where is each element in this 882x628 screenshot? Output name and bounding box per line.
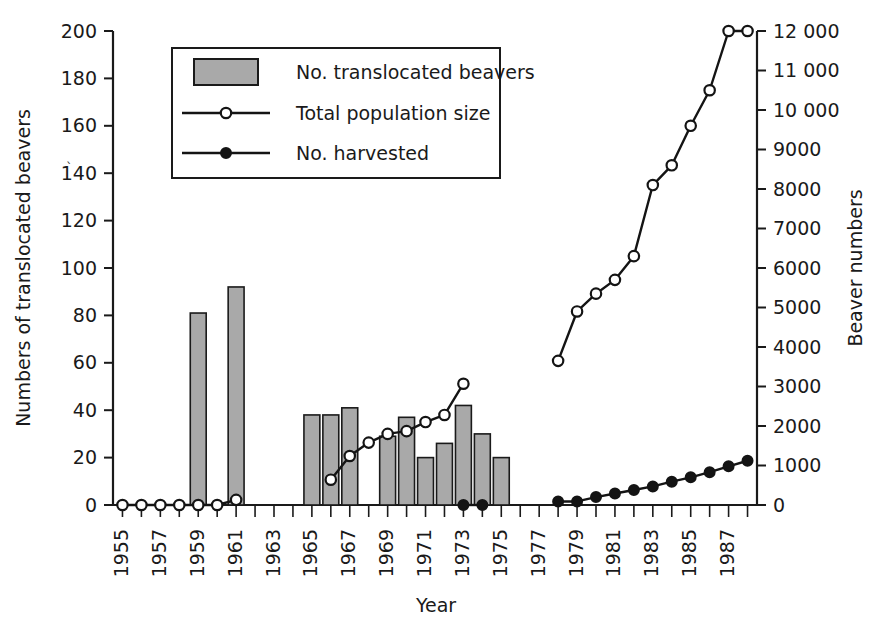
total-population-marker: [136, 500, 146, 510]
x-axis-tick-label: 1987: [716, 529, 738, 577]
y-axis-left-tick-label: 180: [61, 67, 97, 89]
y-axis-right-tick-label: 5000: [773, 296, 821, 318]
y-axis-left: 020406080100120140160180200: [61, 20, 113, 516]
total-population-marker: [174, 500, 184, 510]
y-axis-left-tick-label: 60: [73, 351, 97, 373]
bar: [493, 458, 509, 505]
legend-marker-harvested: [221, 148, 231, 158]
y-axis-left-tick-label: 100: [61, 257, 97, 279]
y-axis-right-tick-label: 3000: [773, 375, 821, 397]
bar: [474, 434, 490, 505]
bar: [228, 287, 244, 505]
y-axis-right-tick-label: 9000: [773, 138, 821, 160]
bar: [190, 313, 206, 505]
x-axis-tick-label: 1975: [489, 529, 511, 577]
harvested-marker: [686, 472, 696, 482]
total-population-marker: [193, 500, 203, 510]
bar: [455, 405, 471, 505]
y-axis-left-tick-label: 40: [73, 399, 97, 421]
y-axis-right-tick-label: 11 000: [773, 59, 839, 81]
harvested-marker: [610, 489, 620, 499]
x-axis-tick-label: 1983: [640, 529, 662, 577]
x-axis-tick-label: 1985: [678, 529, 700, 577]
y-axis-right-tick-label: 0: [773, 494, 785, 516]
y-axis-right-tick-label: 10 000: [773, 99, 839, 121]
bar: [323, 415, 339, 505]
x-axis-tick-label: 1965: [299, 529, 321, 577]
beaver-population-chart: 020406080100120140160180200 010002000300…: [0, 0, 882, 628]
y-axis-right-tick-label: 4000: [773, 336, 821, 358]
total-population-marker: [458, 379, 468, 389]
total-population-marker: [401, 426, 411, 436]
x-axis-tick-label: 1971: [413, 529, 435, 577]
x-axis-tick-label: 1969: [375, 529, 397, 577]
total-population-marker: [742, 26, 752, 36]
legend-label: Total population size: [295, 102, 490, 124]
total-population-marker: [420, 417, 430, 427]
x-axis-tick-label: 1961: [224, 529, 246, 577]
y-axis-left-tick-label: 160: [61, 114, 97, 136]
legend-label: No. harvested: [296, 142, 429, 164]
bar: [304, 415, 320, 505]
y-axis-left-title: Numbers of translocated beavers: [12, 109, 34, 427]
legend-marker-total-population: [221, 108, 231, 118]
bar: [418, 458, 434, 505]
total-population-marker: [572, 306, 582, 316]
y-axis-right-tick-label: 1000: [773, 454, 821, 476]
y-axis-left-tick-label: 80: [73, 304, 97, 326]
total-population-path: [558, 31, 747, 361]
total-population-marker: [231, 495, 241, 505]
harvested-marker: [648, 481, 658, 491]
chart-legend: No. translocated beaversTotal population…: [172, 48, 535, 178]
harvested-marker: [477, 500, 487, 510]
y-axis-right-tick-label: 6000: [773, 257, 821, 279]
x-axis-tick-label: 1957: [148, 529, 170, 577]
x-axis-tick-label: 1955: [110, 529, 132, 577]
x-axis-tick-label: 1977: [527, 529, 549, 577]
y-axis-left-tick-label: 0: [85, 494, 97, 516]
x-axis-tick-label: 1979: [565, 529, 587, 577]
bar: [380, 436, 396, 505]
harvested-marker: [553, 496, 563, 506]
x-axis-tick-label: 1973: [451, 529, 473, 577]
total-population-marker: [439, 410, 449, 420]
y-axis-left-tick-label: 20: [73, 446, 97, 468]
bar-series-translocated: [190, 287, 509, 505]
y-axis-right-title: Beaver numbers: [844, 189, 866, 346]
stray-tick-mark: `: [66, 160, 73, 175]
harvested-marker: [705, 467, 715, 477]
x-axis-title: Year: [415, 594, 456, 616]
total-population-marker: [553, 356, 563, 366]
harvested-marker: [572, 496, 582, 506]
harvested-marker: [591, 492, 601, 502]
y-axis-left-tick-label: 200: [61, 20, 97, 42]
y-axis-right-tick-label: 7000: [773, 217, 821, 239]
x-axis-tick-label: 1981: [602, 529, 624, 577]
legend-label: No. translocated beavers: [296, 61, 535, 83]
total-population-marker: [629, 251, 639, 261]
x-axis-tick-label: 1967: [337, 529, 359, 577]
total-population-marker: [326, 475, 336, 485]
total-population-marker: [382, 429, 392, 439]
harvested-marker: [743, 456, 753, 466]
y-axis-right-tick-label: 12 000: [773, 20, 839, 42]
chart-canvas: 020406080100120140160180200 010002000300…: [0, 0, 882, 628]
total-population-marker: [212, 500, 222, 510]
x-axis-tick-label: 1963: [262, 529, 284, 577]
total-population-marker: [155, 500, 165, 510]
total-population-marker: [117, 500, 127, 510]
harvested-marker: [458, 500, 468, 510]
y-axis-right-tick-label: 8000: [773, 178, 821, 200]
x-axis: 1955195719591961196319651967196919711973…: [110, 505, 757, 577]
total-population-marker: [667, 160, 677, 170]
bar: [437, 443, 453, 505]
harvested-marker: [724, 461, 734, 471]
total-population-marker: [723, 26, 733, 36]
total-population-marker: [591, 288, 601, 298]
total-population-marker: [704, 85, 714, 95]
total-population-marker: [686, 121, 696, 131]
y-axis-right: 010002000300040005000600070008000900010 …: [757, 20, 839, 516]
total-population-marker: [648, 180, 658, 190]
harvested-marker: [629, 485, 639, 495]
y-axis-left-tick-label: 120: [61, 209, 97, 231]
